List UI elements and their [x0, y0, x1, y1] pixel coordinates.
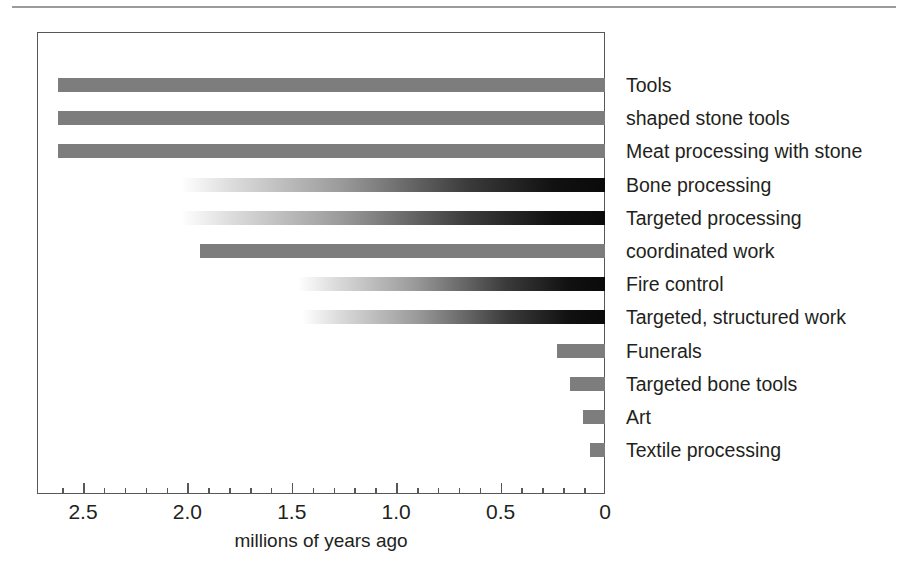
category-labels: Toolsshaped stone toolsMeat processing w…: [626, 32, 907, 494]
category-label-bone-processing: Bone processing: [626, 174, 771, 196]
category-label-targeted-structured-work: Targeted, structured work: [626, 306, 846, 328]
category-label-coordinated-work: coordinated work: [626, 240, 775, 262]
category-label-art: Art: [626, 406, 651, 428]
figure-root: 2.52.01.51.00.50 millions of years ago T…: [0, 0, 907, 569]
x-tick-label-2.0: 2.0: [173, 500, 202, 524]
x-tick-label-0.5: 0.5: [486, 500, 515, 524]
category-label-targeted-bone-tools: Targeted bone tools: [626, 373, 797, 395]
tick-labels-layer: 2.52.01.51.00.50: [37, 0, 605, 569]
x-axis-title: millions of years ago: [37, 530, 605, 552]
x-tick-label-2.5: 2.5: [68, 500, 97, 524]
category-label-meat-processing-with-stone: Meat processing with stone: [626, 140, 862, 162]
category-label-targeted-processing: Targeted processing: [626, 207, 802, 229]
category-label-shaped-stone-tools: shaped stone tools: [626, 107, 790, 129]
x-tick-label-0: 0: [599, 500, 611, 524]
category-label-fire-control: Fire control: [626, 273, 724, 295]
x-tick-label-1.0: 1.0: [382, 500, 411, 524]
category-label-textile-processing: Textile processing: [626, 439, 781, 461]
x-tick-label-1.5: 1.5: [277, 500, 306, 524]
category-label-tools: Tools: [626, 74, 672, 96]
category-label-funerals: Funerals: [626, 340, 702, 362]
